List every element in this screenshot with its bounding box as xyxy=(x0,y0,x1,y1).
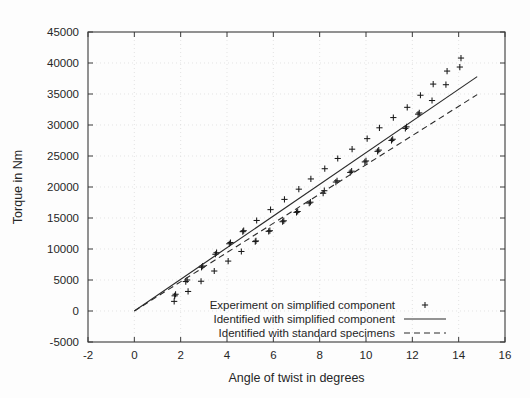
data-series-layer xyxy=(134,55,477,311)
x-axis-tick-labels: -20246810121416 xyxy=(83,349,512,361)
torque-angle-chart-figure: -500005000100001500020000250003000035000… xyxy=(0,0,530,398)
legend-label: Experiment on simplified component xyxy=(210,299,396,311)
legend-label: Identified with standard specimens xyxy=(219,327,396,339)
y-tick-label: 35000 xyxy=(47,88,79,100)
y-tick-label: -5000 xyxy=(50,336,79,348)
chart-canvas: -500005000100001500020000250003000035000… xyxy=(0,0,530,398)
legend: Experiment on simplified componentIdenti… xyxy=(210,299,446,339)
x-tick-label: 4 xyxy=(224,349,231,361)
y-tick-label: 25000 xyxy=(47,150,79,162)
x-tick-label: 14 xyxy=(452,349,465,361)
y-tick-label: 45000 xyxy=(47,26,79,38)
y-tick-label: 40000 xyxy=(47,57,79,69)
legend-label: Identified with simplified component xyxy=(213,313,395,325)
gridlines-group xyxy=(88,32,505,342)
dashed-fit-line xyxy=(134,95,477,311)
x-tick-label: 10 xyxy=(360,349,373,361)
y-tick-label: 5000 xyxy=(53,274,79,286)
x-tick-label: 2 xyxy=(177,349,183,361)
x-tick-label: 6 xyxy=(270,349,276,361)
x-tick-label: -2 xyxy=(83,349,93,361)
y-tick-label: 30000 xyxy=(47,119,79,131)
x-tick-label: 16 xyxy=(499,349,512,361)
x-tick-label: 12 xyxy=(406,349,419,361)
y-axis-tick-labels: -500005000100001500020000250003000035000… xyxy=(47,26,79,348)
x-tick-label: 0 xyxy=(131,349,137,361)
solid-fit-line xyxy=(134,77,477,311)
x-axis-title: Angle of twist in degrees xyxy=(228,371,364,385)
scatter-series xyxy=(171,55,464,305)
y-axis-title: Torque in Nm xyxy=(11,150,25,224)
y-tick-label: 15000 xyxy=(47,212,79,224)
y-tick-label: 0 xyxy=(73,305,79,317)
y-tick-label: 10000 xyxy=(47,243,79,255)
y-tick-label: 20000 xyxy=(47,181,79,193)
x-tick-label: 8 xyxy=(316,349,322,361)
